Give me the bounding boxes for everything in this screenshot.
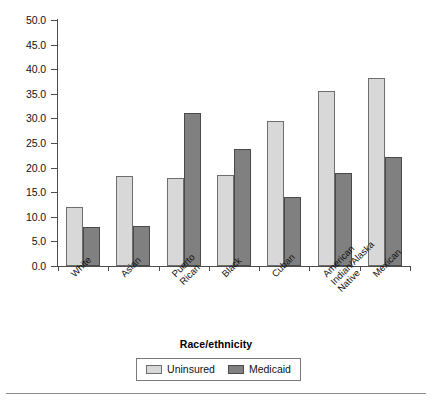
x-axis-tick	[159, 266, 160, 271]
y-axis-tick-label: 40.0	[2, 64, 46, 75]
bar-medicaid-puerto-rican	[184, 113, 201, 267]
x-axis-tick	[259, 266, 260, 271]
bar-uninsured-black	[217, 175, 234, 266]
footer-divider	[6, 393, 426, 394]
y-axis-tick	[51, 192, 57, 193]
plot-area	[58, 20, 410, 266]
y-axis-tick-label: 35.0	[2, 89, 46, 100]
y-axis-tick	[51, 143, 57, 144]
y-axis-tick	[51, 241, 57, 242]
legend-label-medicaid: Medicaid	[249, 364, 291, 375]
x-axis-tick	[209, 266, 210, 271]
y-axis-tick-label: 20.0	[2, 163, 46, 174]
y-axis-tick-label: 15.0	[2, 187, 46, 198]
y-axis-tick	[51, 94, 57, 95]
x-axis-title: Race/ethnicity	[0, 338, 432, 350]
bar-medicaid-black	[234, 149, 251, 266]
bar-uninsured-mexican	[368, 78, 385, 266]
y-axis-tick	[51, 45, 57, 46]
y-axis-tick	[51, 118, 57, 119]
chart-legend: Uninsured Medicaid	[136, 358, 301, 381]
chart-figure: 50.045.040.035.030.025.020.015.010.05.00…	[0, 0, 432, 406]
x-axis-tick	[410, 266, 411, 271]
y-axis-tick-label: 30.0	[2, 113, 46, 124]
bar-uninsured-cuban	[267, 121, 284, 266]
legend-entry-medicaid: Medicaid	[228, 364, 291, 375]
y-axis-tick	[51, 69, 57, 70]
legend-swatch-medicaid	[228, 365, 244, 374]
bar-uninsured-american-indian-alaska-native	[318, 91, 335, 266]
y-axis-tick-label: 0.0	[2, 261, 46, 272]
y-axis-tick	[51, 217, 57, 218]
y-axis-tick-label: 45.0	[2, 40, 46, 51]
x-axis-tick	[108, 266, 109, 271]
y-axis-tick-label: 5.0	[2, 236, 46, 247]
x-axis-tick	[309, 266, 310, 271]
legend-swatch-uninsured	[146, 365, 162, 374]
y-axis-tick	[51, 168, 57, 169]
legend-label-uninsured: Uninsured	[167, 364, 215, 375]
y-axis-tick-label: 50.0	[2, 15, 46, 26]
y-axis-tick-label: 10.0	[2, 212, 46, 223]
bar-uninsured-puerto-rican	[167, 178, 184, 266]
x-axis-tick	[58, 266, 59, 271]
y-axis-tick	[51, 266, 57, 267]
y-axis-tick	[51, 20, 57, 21]
legend-entry-uninsured: Uninsured	[146, 364, 215, 375]
y-axis-tick-label: 25.0	[2, 138, 46, 149]
bar-uninsured-asian	[116, 176, 133, 266]
